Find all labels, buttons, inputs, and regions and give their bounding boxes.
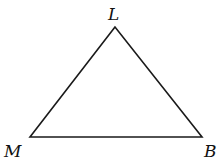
vertex-label-L: L (107, 4, 119, 24)
triangle-LMB (30, 27, 202, 137)
vertex-label-M: M (3, 141, 22, 161)
vertex-label-B: B (203, 141, 217, 161)
triangle-diagram: L M B (0, 0, 217, 162)
